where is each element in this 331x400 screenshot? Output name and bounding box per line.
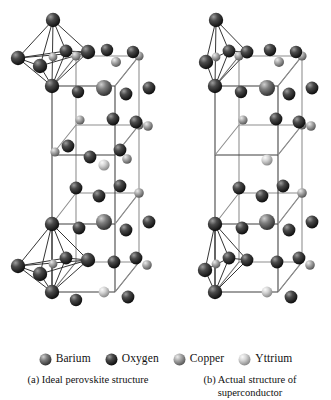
atom-oxygen: [114, 180, 127, 193]
atom-oxygen: [241, 46, 254, 59]
legend-item-yttrium: Yttrium: [238, 353, 292, 366]
atom-oxygen: [33, 59, 47, 73]
atom-copper: [122, 154, 132, 164]
atom-oxygen: [127, 46, 139, 58]
atom-yttrium: [261, 154, 272, 165]
atom-oxygen: [223, 252, 236, 265]
atom-oxygen: [62, 140, 75, 153]
atom-oxygen: [73, 222, 86, 235]
atom-oxygen: [236, 222, 249, 235]
caption-panel-a: (a) Ideal perovskite structure: [4, 374, 172, 387]
atom-oxygen: [11, 51, 25, 65]
atom-oxygen: [271, 256, 284, 269]
atom-oxygen: [120, 88, 133, 101]
atom-oxygen: [60, 252, 73, 265]
atom-oxygen: [256, 190, 269, 203]
atom-barium: [259, 214, 275, 230]
atom-barium: [96, 80, 112, 96]
atom-oxygen: [208, 79, 222, 93]
atom-oxygen: [264, 44, 276, 56]
copper-sphere-icon: [173, 353, 186, 366]
atom-oxygen: [101, 44, 113, 56]
atom-oxygen: [277, 180, 290, 193]
atom-oxygen: [223, 45, 236, 58]
caption-panel-b: (b) Actual structure of superconductor: [172, 374, 328, 399]
atom-oxygen: [270, 113, 283, 126]
atom-oxygen: [293, 252, 306, 265]
atom-oxygen: [293, 116, 306, 129]
atom-oxygen: [208, 285, 222, 299]
atom-oxygen: [81, 253, 95, 267]
atom-copper: [238, 115, 247, 124]
atom-copper: [143, 121, 153, 131]
legend-item-copper: Copper: [173, 353, 224, 366]
atom-oxygen: [70, 294, 82, 306]
legend-item-barium: Barium: [39, 353, 91, 366]
atom-copper: [49, 260, 58, 269]
panel-a-structure: [11, 13, 156, 306]
legend: Barium Oxygen Copper Yttrium: [0, 348, 331, 370]
atom-copper: [212, 53, 221, 62]
atom-barium: [96, 214, 112, 230]
atom-oxygen: [72, 86, 84, 98]
atom-copper: [142, 260, 152, 270]
legend-label-yttrium: Yttrium: [255, 353, 292, 365]
atom-oxygen: [208, 217, 222, 231]
atom-oxygen: [130, 252, 143, 265]
atom-copper: [75, 115, 84, 124]
atom-oxygen: [283, 224, 296, 237]
atom-oxygen: [306, 82, 319, 95]
atom-oxygen: [70, 182, 83, 195]
atom-oxygen: [143, 82, 156, 95]
atom-yttrium: [99, 287, 110, 298]
atom-copper: [306, 121, 316, 131]
atom-oxygen: [209, 13, 223, 27]
atom-copper: [134, 188, 144, 198]
atom-oxygen: [235, 86, 247, 98]
atom-oxygen: [122, 291, 135, 304]
atom-copper: [111, 57, 121, 67]
atom-copper: [274, 57, 284, 67]
legend-label-copper: Copper: [190, 353, 224, 365]
atom-oxygen: [198, 263, 212, 277]
panel-b-structure: [198, 13, 319, 304]
legend-label-barium: Barium: [56, 353, 91, 365]
atom-copper: [212, 260, 221, 269]
barium-sphere-icon: [39, 353, 52, 366]
atom-oxygen: [84, 151, 97, 164]
oxygen-sphere-icon: [105, 353, 118, 366]
atom-oxygen: [114, 144, 127, 157]
atom-oxygen: [130, 116, 143, 129]
atom-oxygen: [93, 190, 106, 203]
legend-item-oxygen: Oxygen: [105, 353, 159, 366]
atom-oxygen: [143, 216, 156, 229]
atom-oxygen: [233, 182, 246, 195]
atom-yttrium: [262, 287, 273, 298]
atom-oxygen: [45, 217, 59, 231]
crystal-structures-svg: [0, 0, 331, 345]
atom-oxygen: [108, 256, 121, 269]
atom-barium: [259, 80, 275, 96]
atom-copper: [297, 188, 307, 198]
atom-oxygen: [306, 216, 319, 229]
atom-oxygen: [60, 45, 73, 58]
atom-copper: [305, 260, 315, 270]
atom-oxygen: [46, 13, 60, 27]
atom-oxygen: [290, 46, 302, 58]
atom-oxygen: [283, 88, 296, 101]
atom-yttrium: [98, 159, 109, 170]
atom-copper: [71, 51, 80, 60]
atom-oxygen: [120, 224, 133, 237]
atom-oxygen: [81, 45, 95, 59]
atom-copper: [49, 53, 58, 62]
atom-oxygen: [33, 267, 47, 281]
crystal-structure-figure: [0, 0, 331, 345]
yttrium-sphere-icon: [238, 353, 251, 366]
atom-oxygen: [241, 254, 254, 267]
atom-oxygen: [45, 285, 59, 299]
atom-oxygen: [285, 291, 298, 304]
atom-oxygen: [199, 55, 213, 69]
legend-label-oxygen: Oxygen: [122, 353, 159, 365]
atom-copper: [50, 147, 59, 156]
atom-oxygen: [107, 113, 120, 126]
